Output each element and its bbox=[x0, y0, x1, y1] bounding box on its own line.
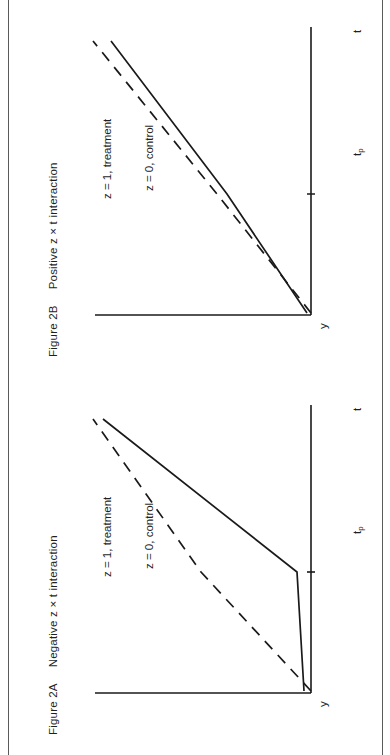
figure-2b-label-control: z = 0, control bbox=[143, 124, 155, 190]
figure-2a-label-treatment: z = 1, treatment bbox=[101, 496, 113, 576]
figure-2a-y-axis-label: y bbox=[317, 701, 329, 707]
figure-2a-canvas: Figure 2ANegative z × t interaction y t … bbox=[45, 397, 345, 737]
figure-2a-curve-treatment bbox=[93, 419, 311, 691]
figure-2a-number: Figure 2A bbox=[47, 683, 59, 735]
figure-2b-y-axis-label: y bbox=[317, 323, 329, 329]
figure-2a: Figure 2ANegative z × t interaction y t … bbox=[0, 378, 390, 755]
figure-2a-curve-control bbox=[103, 419, 304, 691]
figure-2b-canvas: Figure 2BPositive z × t interaction y t … bbox=[45, 19, 345, 359]
figure-2b-title: Figure 2BPositive z × t interaction bbox=[47, 162, 59, 357]
figure-2b-x-axis-label: t bbox=[351, 29, 363, 32]
figure-2b-label-treatment: z = 1, treatment bbox=[101, 118, 113, 198]
figure-2a-title: Figure 2ANegative z × t interaction bbox=[47, 535, 59, 735]
figure-2a-svg bbox=[89, 397, 341, 737]
figure-2b-plot bbox=[89, 19, 341, 359]
figure-2b: Figure 2BPositive z × t interaction y t … bbox=[0, 0, 390, 377]
figure-2b-number: Figure 2B bbox=[47, 305, 59, 357]
figure-2b-curve-control bbox=[111, 41, 307, 313]
figure-2a-x-axis-label: t bbox=[351, 407, 363, 410]
figure-2a-plot bbox=[89, 397, 341, 737]
figure-2b-tick-label-tp: tp bbox=[351, 148, 363, 156]
figure-2b-caption: Positive z × t interaction bbox=[47, 162, 59, 289]
figure-2a-caption: Negative z × t interaction bbox=[47, 535, 59, 667]
figure-2a-label-control: z = 0, control bbox=[143, 502, 155, 568]
figure-2a-tick-label-tp: tp bbox=[351, 526, 363, 534]
figure-2b-svg bbox=[89, 19, 341, 359]
